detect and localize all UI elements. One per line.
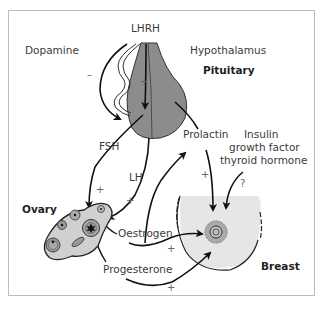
line-ovary-to-oestrogen [106, 226, 117, 234]
label-thyroid-hormone: thyroid hormone [220, 155, 307, 166]
label-insulin: Insulin [244, 129, 278, 140]
sign-lh-stimulate: + [126, 196, 134, 206]
sign-dopamine-inhibit: – [87, 70, 92, 80]
sign-progesterone-to-breast: + [167, 283, 175, 293]
label-hypothalamus: Hypothalamus [190, 45, 266, 56]
label-oestrogen: Oestrogen [118, 228, 173, 239]
label-progesterone: Progesterone [103, 264, 172, 275]
sign-unknown-effect: ? [240, 179, 245, 189]
label-lh: LH [129, 172, 143, 183]
label-lhrh: LHRH [131, 23, 160, 34]
label-ovary: Ovary [22, 204, 57, 215]
label-fsh: FSH [99, 141, 119, 152]
sign-fsh-stimulate: + [96, 185, 104, 195]
sign-prolactin-to-breast: + [201, 170, 209, 180]
sign-oestrogen-to-breast: + [167, 244, 175, 254]
label-growth-factor: growth factor [229, 142, 300, 153]
label-breast: Breast [261, 261, 300, 272]
label-dopamine: Dopamine [25, 45, 79, 56]
label-prolactin: Prolactin [183, 129, 228, 140]
label-pituitary: Pituitary [203, 65, 255, 76]
sign-lhrh-stimulate: + [140, 77, 148, 87]
pituitary-gland [127, 43, 187, 139]
